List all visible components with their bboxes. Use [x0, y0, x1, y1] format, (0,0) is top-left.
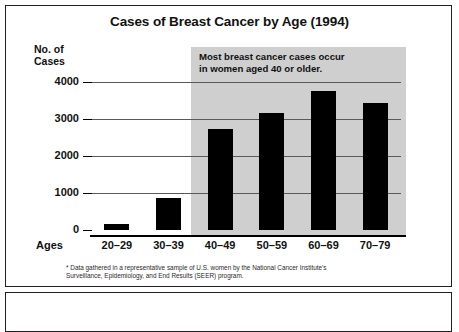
x-tick-label: 20–29 [91, 239, 143, 251]
y-tick-mark [83, 156, 92, 157]
gridline [91, 119, 401, 120]
y-axis-title-line1: No. of [34, 43, 64, 55]
x-tick-label: 30–39 [143, 239, 195, 251]
footnote-line1: * Data gathered in a representative samp… [66, 264, 327, 271]
bar-50-59 [259, 113, 284, 230]
x-axis-line [90, 235, 406, 237]
secondary-panel [5, 292, 452, 332]
y-axis-title: No. of Cases [34, 44, 96, 67]
x-tick-label: 50–59 [246, 239, 298, 251]
page-title: Cases of Breast Cancer by Age (1994) [6, 14, 453, 29]
x-tick-label: 40–49 [194, 239, 246, 251]
bar-30-39 [156, 198, 181, 230]
y-tick-label: 0 [31, 223, 79, 235]
bar-70-79 [363, 103, 388, 230]
x-axis-labels: 20–2930–3940–4950–5960–6970–79 [6, 239, 453, 255]
y-axis-title-line2: Cases [34, 55, 65, 67]
callout-line1: Most breast cancer cases occur [199, 51, 345, 62]
callout-annotation: Most breast cancer cases occur in women … [199, 51, 404, 74]
bar-40-49 [208, 129, 233, 230]
x-tick-label: 70–79 [349, 239, 401, 251]
footnote-line2: Surveillance, Epidemiology, and End Resu… [66, 272, 243, 279]
callout-line2: in women aged 40 or older. [199, 63, 322, 74]
y-tick-label: 2000 [31, 149, 79, 161]
chart-panel: Cases of Breast Cancer by Age (1994) No.… [5, 5, 452, 287]
bar-60-69 [311, 91, 336, 230]
gridline [91, 193, 401, 194]
y-tick-mark [83, 82, 92, 83]
footnote: * Data gathered in a representative samp… [66, 264, 416, 280]
y-tick-label: 1000 [31, 186, 79, 198]
y-tick-label: 4000 [31, 75, 79, 87]
bar-20-29 [104, 224, 129, 230]
x-tick-label: 60–69 [298, 239, 350, 251]
y-tick-mark [83, 119, 92, 120]
y-tick-mark [83, 230, 92, 231]
gridline [91, 82, 401, 83]
y-tick-label: 3000 [31, 112, 79, 124]
y-tick-mark [83, 193, 92, 194]
gridline [91, 156, 401, 157]
